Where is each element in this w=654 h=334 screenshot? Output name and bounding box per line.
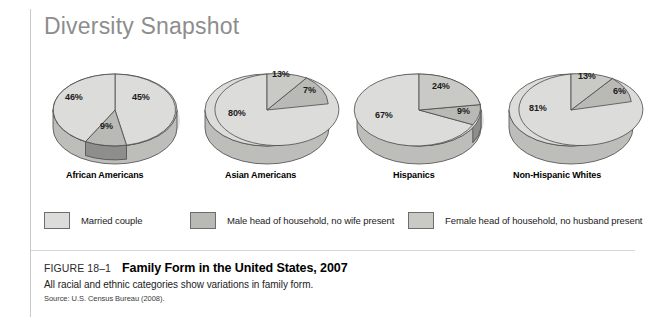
figure-caption: FIGURE 18–1 Family Form in the United St…: [44, 261, 634, 303]
figure-source: Source: U.S. Census Bureau (2008).: [44, 294, 634, 303]
chart-legend: Married couple Male head of household, n…: [44, 208, 644, 236]
legend-item-female-head: Female head of household, no husband pre…: [408, 208, 642, 232]
slice-label-married: 80%: [228, 108, 246, 118]
pie-svg-4: [496, 48, 646, 180]
legend-label-married-couple: Married couple: [81, 215, 142, 226]
figure-title: Family Form in the United States, 2007: [122, 261, 347, 275]
slice-label-female-head: 13%: [272, 69, 290, 79]
category-label-asian-americans: Asian Americans: [225, 170, 296, 180]
figure-number: FIGURE 18–1: [44, 262, 111, 274]
pie-svg-1: [40, 48, 190, 180]
figure-container: Diversity Snapshot 45% 9% 46%: [0, 0, 654, 334]
slice-label-married: 81%: [529, 103, 547, 113]
slice-label-female-head: 24%: [432, 81, 450, 91]
legend-label-female-head: Female head of household, no husband pre…: [445, 215, 642, 226]
slice-label-married: 45%: [132, 92, 150, 102]
pie-svg-3: [344, 48, 494, 180]
legend-item-male-head: Male head of household, no wife present: [190, 208, 394, 232]
pie-chart-group: 45% 9% 46% 80% 7% 13%: [40, 48, 646, 180]
pie-svg-2: [192, 48, 342, 180]
legend-label-male-head: Male head of household, no wife present: [227, 215, 394, 226]
legend-swatch-female-head: [408, 212, 434, 229]
figure-subtitle: All racial and ethnic categories show va…: [44, 279, 634, 290]
slice-label-male-head: 9%: [100, 121, 113, 131]
category-label-hispanics: Hispanics: [393, 170, 435, 180]
pie-chart-african-americans: 45% 9% 46%: [40, 48, 190, 180]
legend-swatch-married-couple: [44, 212, 70, 229]
slice-label-female-head: 13%: [578, 71, 596, 81]
category-label-non-hispanic-whites: Non-Hispanic Whites: [513, 170, 601, 180]
legend-item-married-couple: Married couple: [44, 208, 142, 232]
page-title: Diversity Snapshot: [44, 13, 239, 40]
slice-label-married: 67%: [375, 110, 393, 120]
pie-chart-hispanics: 67% 9% 24%: [344, 48, 494, 180]
caption-headline: FIGURE 18–1 Family Form in the United St…: [44, 261, 634, 275]
legend-swatch-male-head: [190, 212, 216, 229]
slice-label-male-head: 6%: [613, 86, 626, 96]
left-accent-rule: [30, 9, 31, 317]
slice-label-male-head: 7%: [303, 85, 316, 95]
category-label-african-americans: African Americans: [66, 170, 144, 180]
pie-chart-asian-americans: 80% 7% 13%: [192, 48, 342, 180]
slice-label-female-head: 46%: [65, 92, 83, 102]
slice-label-male-head: 9%: [457, 106, 470, 116]
caption-divider: [31, 250, 635, 251]
pie-chart-non-hispanic-whites: 81% 6% 13%: [496, 48, 646, 180]
